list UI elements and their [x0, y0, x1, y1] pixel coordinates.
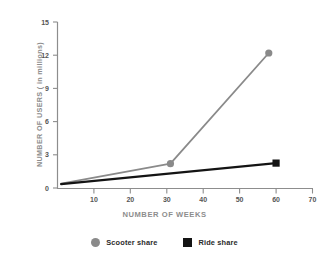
legend-label-scooter-share: Scooter share — [106, 238, 157, 247]
legend-label-ride-share: Ride share — [198, 238, 237, 247]
plot-area: 15 12 9 6 3 0 10 20 30 40 50 60 70 — [0, 0, 329, 268]
y-tick-label-15: 15 — [41, 19, 49, 26]
square-data-marker — [272, 160, 279, 167]
legend-item-scooter-share[interactable]: Scooter share — [91, 238, 157, 247]
square-marker-icon — [183, 238, 192, 247]
x-axis-ticks — [94, 189, 313, 194]
x-tick-label-10: 10 — [90, 196, 98, 203]
chart-container: NUMBER OF USERS ( in millions) 15 12 9 6… — [0, 0, 329, 268]
x-tick-label-40: 40 — [199, 196, 207, 203]
x-tick-label-60: 60 — [272, 196, 280, 203]
chart-legend: Scooter share Ride share — [0, 238, 329, 247]
y-tick-label-6: 6 — [45, 118, 49, 125]
legend-item-ride-share[interactable]: Ride share — [183, 238, 237, 247]
circle-data-marker — [265, 49, 272, 56]
y-tick-label-12: 12 — [41, 52, 49, 59]
x-tick-label-70: 70 — [309, 196, 317, 203]
circle-marker-icon — [91, 238, 100, 247]
y-tick-label-0: 0 — [45, 185, 49, 192]
series-scooter-share — [61, 49, 272, 183]
y-tick-label-9: 9 — [45, 85, 49, 92]
data-series-layer — [61, 49, 280, 184]
x-tick-label-20: 20 — [126, 196, 134, 203]
x-tick-label-30: 30 — [163, 196, 171, 203]
x-axis-title: NUMBER OF WEEKS — [0, 210, 329, 219]
circle-data-marker — [167, 160, 174, 167]
series-line — [61, 53, 269, 184]
y-axis-ticks — [53, 22, 58, 188]
y-tick-label-3: 3 — [45, 151, 49, 158]
x-tick-label-50: 50 — [236, 196, 244, 203]
